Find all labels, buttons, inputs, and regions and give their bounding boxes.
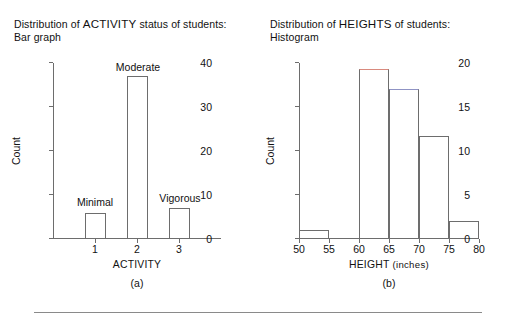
hist-bin-60-65 xyxy=(359,69,389,239)
xlabel-b-units: (inches) xyxy=(389,259,429,270)
ytick-mark-a-10 xyxy=(49,194,53,195)
xtick-label-b-50: 50 xyxy=(293,243,305,255)
panel-b-title-variable: HEIGHTS xyxy=(339,17,392,30)
ytick-mark-b-5 xyxy=(295,194,299,195)
hist-bin-65-70 xyxy=(389,89,419,239)
ytick-mark-b-15 xyxy=(295,106,299,107)
ytick-label-b-20: 20 xyxy=(458,57,470,69)
caption-a: (a) xyxy=(131,277,144,289)
ytick-mark-a-40 xyxy=(49,62,53,63)
ytick-label-b-5: 5 xyxy=(464,189,470,201)
plot-area-heights: 0 5 10 15 20 50 55 60 65 70 75 80 xyxy=(299,63,479,239)
ytick-mark-a-0 xyxy=(49,238,53,239)
panel-heights-histogram: Distribution of HEIGHTS of students:Hist… xyxy=(256,0,511,300)
panel-a-title: Distribution of ACTIVITY status of stude… xyxy=(14,4,227,44)
bar-moderate xyxy=(127,76,148,239)
figure-bottom-rule xyxy=(34,312,482,313)
hist-bin-50-55 xyxy=(299,230,329,239)
ytick-label-a-40: 40 xyxy=(200,57,212,69)
ytick-label-a-0: 0 xyxy=(206,233,212,245)
ytick-label-a-30: 30 xyxy=(200,101,212,113)
bar-label-moderate: Moderate xyxy=(116,61,160,73)
hist-bin-70-75 xyxy=(419,136,449,239)
plot-area-activity: 0 10 20 30 40 1 2 3 Minimal Moderate Vig… xyxy=(53,63,221,239)
xlabel-a: ACTIVITY xyxy=(113,259,161,270)
ytick-label-b-15: 15 xyxy=(458,101,470,113)
xtick-label-a-2: 2 xyxy=(134,243,140,255)
xtick-label-a-3: 3 xyxy=(176,243,182,255)
xlabel-b: HEIGHT (inches) xyxy=(349,259,429,270)
panel-b-title-subtitle: Histogram xyxy=(270,31,319,43)
ytick-label-a-10: 10 xyxy=(200,189,212,201)
ytick-label-a-20: 20 xyxy=(200,145,212,157)
xlabel-b-variable: HEIGHT xyxy=(349,259,389,270)
bar-vigorous xyxy=(169,208,190,239)
caption-b: (b) xyxy=(383,277,396,289)
xtick-label-b-55: 55 xyxy=(323,243,335,255)
panel-b-title-suffix: of students: xyxy=(392,18,451,30)
xtick-label-b-60: 60 xyxy=(353,243,365,255)
panel-b-title-prefix: Distribution of xyxy=(270,18,339,30)
xtick-label-a-1: 1 xyxy=(92,243,98,255)
panel-a-title-prefix: Distribution of xyxy=(14,18,83,30)
xtick-label-b-65: 65 xyxy=(383,243,395,255)
xtick-label-b-75: 75 xyxy=(443,243,455,255)
panel-a-title-variable: ACTIVITY xyxy=(83,17,137,30)
panel-a-title-suffix: status of students: xyxy=(137,18,227,30)
ytick-mark-a-20 xyxy=(49,150,53,151)
panel-activity-bar-graph: Distribution of ACTIVITY status of stude… xyxy=(0,0,256,300)
hist-bin-75-80 xyxy=(449,221,479,239)
ytick-mark-b-20 xyxy=(295,62,299,63)
panel-a-title-subtitle: Bar graph xyxy=(14,31,61,43)
panel-b-title: Distribution of HEIGHTS of students:Hist… xyxy=(270,4,450,44)
ylabel-a: Count xyxy=(10,137,22,165)
ytick-mark-b-10 xyxy=(295,150,299,151)
ytick-label-b-10: 10 xyxy=(458,145,470,157)
bar-minimal xyxy=(85,213,106,239)
xtick-label-b-80: 80 xyxy=(473,243,485,255)
xtick-label-b-70: 70 xyxy=(413,243,425,255)
ylabel-b: Count xyxy=(264,137,276,165)
bar-label-minimal: Minimal xyxy=(77,196,113,208)
xlabel-a-text: ACTIVITY xyxy=(113,259,161,270)
ytick-mark-a-30 xyxy=(49,106,53,107)
bar-label-vigorous: Vigorous xyxy=(159,192,200,204)
